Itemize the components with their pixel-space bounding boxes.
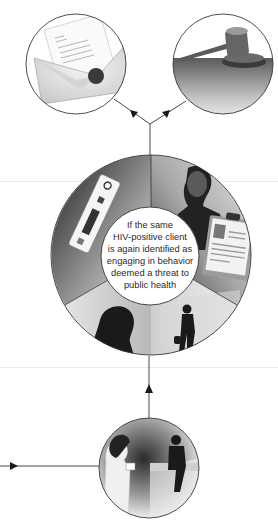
center-text: If the same HIV-positive client is again… — [101, 206, 199, 304]
arrow-up-left-icon — [130, 110, 138, 118]
center-text-line: If the same — [107, 219, 193, 231]
arrow-up-icon — [145, 384, 153, 393]
center-text-line: public health — [107, 279, 193, 291]
envelope-letter-icon — [20, 10, 136, 120]
center-text-line: is again identified as — [107, 243, 193, 255]
gavel-icon — [170, 10, 278, 120]
arrow-right-icon — [10, 462, 18, 470]
center-text-line: engaging in behavior — [107, 255, 193, 267]
center-text-line: HIV-positive client — [107, 231, 193, 243]
diagram-canvas: If the same HIV-positive client is again… — [0, 0, 278, 520]
center-text-line: deemed a threat to — [107, 267, 193, 279]
clipboard-icon — [202, 210, 257, 281]
branch-connector — [114, 99, 186, 155]
arrow-up-right-icon — [162, 110, 170, 118]
